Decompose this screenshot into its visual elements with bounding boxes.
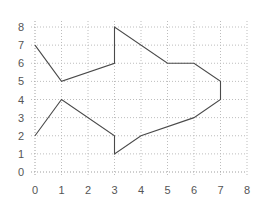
x-tick-label: 6: [191, 184, 197, 196]
y-tick-label: 4: [18, 94, 24, 106]
y-tick-label: 7: [18, 39, 24, 51]
x-tick-label: 4: [138, 184, 144, 196]
data-series-layer: [35, 27, 221, 154]
y-tick-label: 6: [18, 57, 24, 69]
y-tick-label: 3: [18, 112, 24, 124]
x-tick-label: 8: [244, 184, 250, 196]
x-tick-label: 1: [58, 184, 64, 196]
y-tick-label: 8: [18, 21, 24, 33]
x-tick-label: 0: [32, 184, 38, 196]
x-tick-label: 5: [164, 184, 170, 196]
data-series-line: [35, 27, 221, 154]
chart-container: 012345678 012345678: [0, 0, 262, 207]
y-axis-tick-labels: 012345678: [18, 21, 24, 178]
y-tick-label: 5: [18, 75, 24, 87]
x-tick-label: 3: [111, 184, 117, 196]
x-tick-label: 2: [85, 184, 91, 196]
x-tick-label: 7: [217, 184, 223, 196]
chart-plot-area: 012345678 012345678: [0, 0, 262, 207]
y-tick-label: 1: [18, 148, 24, 160]
x-axis-tick-labels: 012345678: [32, 184, 250, 196]
y-tick-label: 0: [18, 166, 24, 178]
y-tick-label: 2: [18, 130, 24, 142]
